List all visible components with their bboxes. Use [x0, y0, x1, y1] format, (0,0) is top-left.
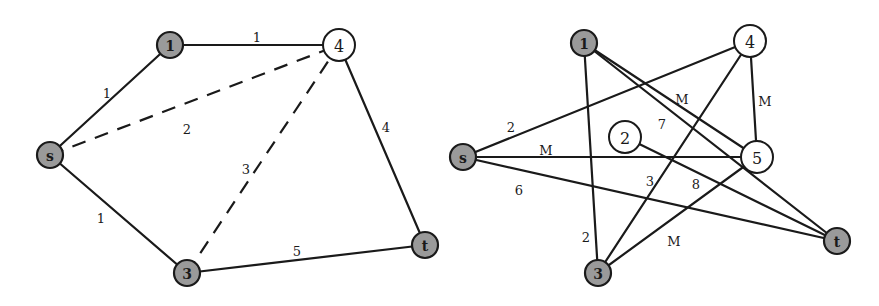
- node-4: 4: [323, 29, 355, 61]
- node-label: 4: [334, 37, 344, 56]
- node-label: s: [46, 148, 54, 164]
- edge-weight-label: M: [675, 92, 688, 107]
- node-3: 3: [174, 260, 200, 286]
- edge-weight-label: M: [758, 94, 771, 109]
- edge-weight-label: 6: [515, 183, 523, 198]
- node-label: 3: [182, 266, 192, 282]
- node-1: 1: [571, 30, 597, 56]
- node-3: 3: [585, 260, 611, 286]
- right-graph-nodes: s14253t: [450, 25, 850, 286]
- edge-weight-label: 1: [97, 211, 105, 226]
- right-graph-edge-labels: 2M6M72M38M: [507, 92, 772, 249]
- graph-canvas: 1123145 s143t 2M6M72M38M s14253t: [0, 0, 879, 306]
- edge-weight-label: 1: [103, 86, 111, 101]
- edge-s-3: [50, 155, 187, 273]
- edge-s-4: [50, 45, 339, 155]
- left-graph: 1123145 s143t: [37, 29, 438, 286]
- node-t: t: [824, 228, 850, 254]
- node-label: 1: [165, 38, 175, 54]
- node-label: 3: [593, 266, 603, 282]
- edge-weight-label: 4: [382, 120, 390, 135]
- node-4: 4: [734, 25, 766, 57]
- edge-3-4: [187, 45, 339, 273]
- edge-weight-label: 3: [242, 162, 250, 177]
- edge-3-t: [187, 245, 425, 273]
- left-graph-nodes: s143t: [37, 29, 438, 286]
- edge-weight-label: 7: [658, 117, 666, 132]
- edge-5-3: [598, 157, 757, 273]
- left-graph-edges: [50, 45, 425, 273]
- edge-2-t: [625, 137, 837, 241]
- edge-weight-label: 2: [582, 230, 590, 245]
- edge-weight-label: 5: [293, 244, 301, 259]
- node-label: t: [834, 234, 841, 250]
- node-label: 4: [745, 33, 755, 52]
- node-5: 5: [741, 141, 773, 173]
- edge-4-t: [339, 45, 425, 245]
- edge-weight-label: 3: [646, 174, 654, 189]
- node-s: s: [450, 144, 476, 170]
- edge-s-t: [463, 157, 837, 241]
- right-graph: 2M6M72M38M s14253t: [450, 25, 850, 286]
- node-1: 1: [157, 32, 183, 58]
- node-label: 2: [620, 129, 630, 148]
- edge-weight-label: M: [667, 234, 680, 249]
- edge-weight-label: 8: [692, 177, 700, 192]
- edge-weight-label: 1: [253, 30, 261, 45]
- edge-weight-label: 2: [507, 120, 515, 135]
- node-t: t: [412, 232, 438, 258]
- edge-weight-label: M: [539, 143, 552, 158]
- node-2: 2: [609, 121, 641, 153]
- node-label: t: [422, 238, 429, 254]
- node-s: s: [37, 142, 63, 168]
- node-label: 1: [579, 36, 589, 52]
- edge-4-5: [750, 41, 757, 157]
- right-graph-edges: [463, 41, 837, 273]
- node-label: 5: [752, 149, 762, 168]
- edge-weight-label: 2: [183, 122, 191, 137]
- node-label: s: [459, 150, 467, 166]
